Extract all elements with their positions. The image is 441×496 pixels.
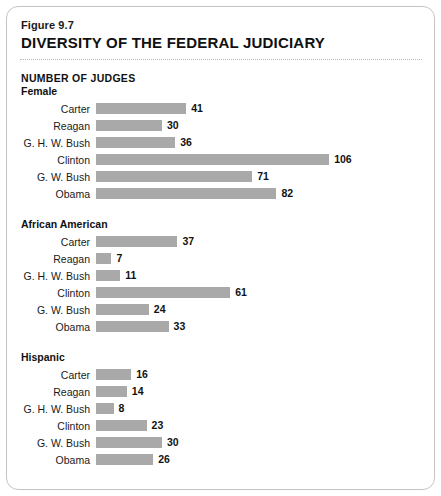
- bar-value-label: 30: [167, 120, 179, 131]
- figure-card: Figure 9.7 DIVERSITY OF THE FEDERAL JUDI…: [6, 6, 435, 490]
- bar-value-label: 33: [174, 321, 186, 332]
- bar-row: Obama33: [21, 319, 434, 334]
- bar-row: Clinton61: [21, 285, 434, 300]
- bar-row-label: Reagan: [21, 120, 96, 132]
- bar-row-label: G. H. W. Bush: [21, 270, 96, 282]
- bar-fill: [96, 437, 162, 448]
- bar-row: G. H. W. Bush36: [21, 135, 434, 150]
- bar-track: 7: [96, 253, 434, 264]
- bar-fill: [96, 270, 120, 281]
- bar-fill: [96, 321, 169, 332]
- bar-row: G. W. Bush71: [21, 169, 434, 184]
- bar-row: Carter37: [21, 234, 434, 249]
- bar-value-label: 8: [119, 403, 125, 414]
- bar-row: Clinton23: [21, 418, 434, 433]
- bar-row: Carter16: [21, 367, 434, 382]
- bar-row-label: Obama: [21, 321, 96, 333]
- bar-group-title: African American: [21, 218, 434, 231]
- bar-row-label: G. W. Bush: [21, 437, 96, 449]
- figure-number: Figure 9.7: [21, 19, 434, 32]
- bar-row-label: Obama: [21, 454, 96, 466]
- bar-row-label: G. H. W. Bush: [21, 403, 96, 415]
- bar-row-label: Clinton: [21, 154, 96, 166]
- bar-row: Obama82: [21, 186, 434, 201]
- bar-group-title: Female: [21, 85, 434, 98]
- bar-track: 16: [96, 369, 434, 380]
- bar-row: Reagan30: [21, 118, 434, 133]
- bar-track: 106: [96, 154, 434, 165]
- bar-value-label: 26: [158, 454, 170, 465]
- bar-row-label: Carter: [21, 369, 96, 381]
- bar-track: 61: [96, 287, 434, 298]
- bar-track: 11: [96, 270, 434, 281]
- bar-group: FemaleCarter41Reagan30G. H. W. Bush36Cli…: [21, 85, 434, 201]
- bar-fill: [96, 137, 175, 148]
- bar-row: G. W. Bush30: [21, 435, 434, 450]
- bar-row: Reagan7: [21, 251, 434, 266]
- bar-row-label: G. W. Bush: [21, 304, 96, 316]
- bar-value-label: 16: [136, 369, 148, 380]
- bar-fill: [96, 304, 149, 315]
- bar-fill: [96, 120, 162, 131]
- bar-value-label: 106: [334, 154, 352, 165]
- bar-row-label: Clinton: [21, 287, 96, 299]
- bar-value-label: 7: [116, 253, 122, 264]
- bar-fill: [96, 454, 153, 465]
- bar-value-label: 71: [257, 171, 269, 182]
- bar-value-label: 14: [132, 386, 144, 397]
- bar-value-label: 30: [167, 437, 179, 448]
- bar-group: African AmericanCarter37Reagan7G. H. W. …: [21, 218, 434, 334]
- bar-row: Obama26: [21, 452, 434, 467]
- bar-track: 33: [96, 321, 434, 332]
- bar-value-label: 11: [125, 270, 136, 281]
- bar-value-label: 82: [281, 188, 293, 199]
- bar-track: 14: [96, 386, 434, 397]
- bar-fill: [96, 369, 131, 380]
- bar-group-title: Hispanic: [21, 351, 434, 364]
- bar-track: 36: [96, 137, 434, 148]
- bar-fill: [96, 253, 111, 264]
- bar-row-label: Obama: [21, 188, 96, 200]
- bar-row-label: Clinton: [21, 420, 96, 432]
- chart-body: NUMBER OF JUDGES FemaleCarter41Reagan30G…: [7, 61, 434, 467]
- bar-groups-container: FemaleCarter41Reagan30G. H. W. Bush36Cli…: [21, 85, 434, 467]
- figure-title: DIVERSITY OF THE FEDERAL JUDICIARY: [21, 34, 434, 52]
- bar-rows: Carter16Reagan14G. H. W. Bush8Clinton23G…: [21, 367, 434, 467]
- bar-value-label: 24: [154, 304, 166, 315]
- bar-fill: [96, 287, 230, 298]
- bar-rows: Carter37Reagan7G. H. W. Bush11Clinton61G…: [21, 234, 434, 334]
- bar-row: Reagan14: [21, 384, 434, 399]
- bar-fill: [96, 403, 114, 414]
- bar-fill: [96, 171, 252, 182]
- figure-header: Figure 9.7 DIVERSITY OF THE FEDERAL JUDI…: [7, 7, 434, 52]
- bar-row: Clinton106: [21, 152, 434, 167]
- bar-value-label: 36: [180, 137, 192, 148]
- bar-row-label: Carter: [21, 236, 96, 248]
- bar-row-label: Carter: [21, 103, 96, 115]
- bar-row: G. W. Bush24: [21, 302, 434, 317]
- bar-value-label: 23: [152, 420, 164, 431]
- bar-row: G. H. W. Bush11: [21, 268, 434, 283]
- bar-track: 82: [96, 188, 434, 199]
- bar-value-label: 41: [191, 103, 203, 114]
- bar-row-label: Reagan: [21, 253, 96, 265]
- chart-axis-heading: NUMBER OF JUDGES: [21, 72, 434, 85]
- bar-fill: [96, 386, 127, 397]
- bar-value-label: 37: [182, 236, 194, 247]
- bar-fill: [96, 188, 276, 199]
- bar-row: G. H. W. Bush8: [21, 401, 434, 416]
- bar-track: 71: [96, 171, 434, 182]
- bar-track: 8: [96, 403, 434, 414]
- bar-fill: [96, 420, 147, 431]
- bar-rows: Carter41Reagan30G. H. W. Bush36Clinton10…: [21, 101, 434, 201]
- bar-fill: [96, 236, 177, 247]
- bar-fill: [96, 154, 329, 165]
- bar-group: HispanicCarter16Reagan14G. H. W. Bush8Cl…: [21, 351, 434, 467]
- bar-track: 23: [96, 420, 434, 431]
- bar-row-label: Reagan: [21, 386, 96, 398]
- bar-value-label: 61: [235, 287, 247, 298]
- bar-track: 37: [96, 236, 434, 247]
- bar-track: 30: [96, 437, 434, 448]
- bar-track: 26: [96, 454, 434, 465]
- bar-fill: [96, 103, 186, 114]
